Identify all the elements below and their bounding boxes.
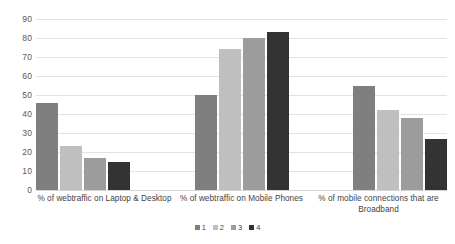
category-label: % of webtraffic on Laptop & Desktop <box>36 193 173 215</box>
y-axis-tick: 80 <box>22 34 32 43</box>
y-axis-tick: 40 <box>22 110 32 119</box>
bar-group <box>353 19 447 190</box>
bar-series-1[interactable] <box>353 86 375 191</box>
bar-series-1[interactable] <box>195 95 217 190</box>
category-label: % of webtraffic on Mobile Phones <box>173 193 310 215</box>
category-labels: % of webtraffic on Laptop & Desktop% of … <box>36 193 447 215</box>
y-axis-tick: 50 <box>22 91 32 100</box>
y-axis-tick: 0 <box>27 186 32 195</box>
chart-legend: 1234 <box>0 224 455 232</box>
legend-label: 1 <box>202 224 206 232</box>
y-axis-tick: 10 <box>22 167 32 176</box>
legend-swatch-icon <box>213 225 218 230</box>
legend-item[interactable]: 2 <box>213 224 224 232</box>
bar-series-2[interactable] <box>60 146 82 190</box>
grouped-bar-chart: 9080706050403020100 % of webtraffic on L… <box>0 0 455 244</box>
y-axis-tick: 60 <box>22 72 32 81</box>
legend-item[interactable]: 1 <box>195 224 206 232</box>
legend-label: 2 <box>220 224 224 232</box>
y-axis: 9080706050403020100 <box>0 19 32 190</box>
legend-label: 3 <box>238 224 242 232</box>
legend-label: 4 <box>256 224 260 232</box>
bar-series-3[interactable] <box>401 118 423 190</box>
axis-baseline <box>36 190 447 191</box>
y-axis-tick: 90 <box>22 15 32 24</box>
bar-series-1[interactable] <box>36 103 58 190</box>
legend-swatch-icon <box>231 225 236 230</box>
legend-swatch-icon <box>249 225 254 230</box>
legend-item[interactable]: 4 <box>249 224 260 232</box>
category-label: % of mobile connections that are Broadba… <box>310 193 447 215</box>
bar-series-4[interactable] <box>108 162 130 191</box>
y-axis-tick: 20 <box>22 148 32 157</box>
plot-area <box>36 19 447 190</box>
legend-item[interactable]: 3 <box>231 224 242 232</box>
bar-series-3[interactable] <box>243 38 265 190</box>
bar-series-2[interactable] <box>377 110 399 190</box>
bar-series-4[interactable] <box>267 32 289 190</box>
bar-series-2[interactable] <box>219 49 241 190</box>
legend-swatch-icon <box>195 225 200 230</box>
bar-group <box>36 19 130 190</box>
bar-groups <box>36 19 447 190</box>
bar-group <box>195 19 289 190</box>
y-axis-tick: 30 <box>22 129 32 138</box>
y-axis-tick: 70 <box>22 53 32 62</box>
bar-series-4[interactable] <box>425 139 447 190</box>
bar-series-3[interactable] <box>84 158 106 190</box>
